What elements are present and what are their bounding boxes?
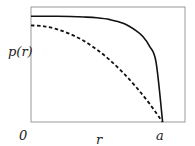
y-axis-label: p(r) bbox=[8, 44, 33, 59]
series-solid-line bbox=[31, 16, 163, 122]
plot-frame bbox=[31, 7, 185, 122]
x-axis-label: r bbox=[96, 132, 103, 146]
chart: p(r) 0 a r bbox=[0, 0, 195, 146]
x-tick-a: a bbox=[156, 128, 164, 143]
x-tick-0: 0 bbox=[19, 128, 27, 143]
series-dashed-line bbox=[31, 25, 163, 122]
